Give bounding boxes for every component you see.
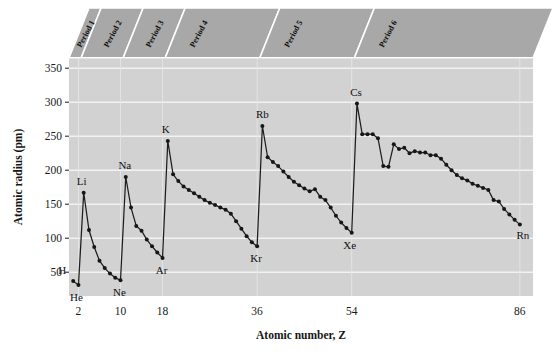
element-label: H — [58, 264, 66, 276]
band-plot-divider — [69, 57, 533, 58]
data-point — [513, 218, 517, 222]
y-tick-labels-group: 50100150200250300350 — [45, 62, 69, 278]
data-point — [397, 147, 401, 151]
data-point — [260, 124, 264, 128]
element-label: Xe — [343, 239, 356, 251]
x-tick-labels-group: 21018365486 — [76, 305, 526, 317]
element-label: K — [162, 123, 170, 135]
data-point — [392, 142, 396, 146]
data-point — [129, 206, 133, 210]
data-point — [97, 259, 101, 263]
data-point — [224, 208, 228, 212]
x-tick-label: 86 — [514, 305, 526, 317]
x-axis-title: Atomic number, Z — [256, 329, 346, 341]
data-point — [297, 183, 301, 187]
data-point — [518, 223, 522, 227]
element-label: Cs — [350, 86, 362, 98]
data-point — [92, 245, 96, 249]
data-point — [271, 160, 275, 164]
data-point — [429, 153, 433, 157]
data-point — [476, 184, 480, 188]
data-point — [507, 212, 511, 216]
data-point — [486, 188, 490, 192]
data-point — [176, 179, 180, 183]
data-point — [119, 278, 123, 282]
y-axis-title: Atomic radius (pm) — [12, 129, 25, 226]
data-point — [255, 244, 259, 248]
data-point — [308, 189, 312, 193]
data-point — [408, 151, 412, 155]
data-point — [82, 191, 86, 195]
element-label: Ne — [113, 286, 126, 298]
data-point — [402, 146, 406, 150]
data-point — [203, 198, 207, 202]
data-point — [323, 198, 327, 202]
x-tick-label: 18 — [157, 305, 169, 317]
data-point — [355, 102, 359, 106]
data-point — [108, 272, 112, 276]
y-tick-label: 350 — [45, 62, 63, 74]
data-point — [276, 164, 280, 168]
data-point — [439, 157, 443, 161]
element-label: Kr — [250, 252, 262, 264]
data-point — [197, 195, 201, 199]
data-point — [465, 178, 469, 182]
chart-svg: 50100150200250300350 21018365486 HHeLiNe… — [0, 0, 557, 351]
data-point — [182, 185, 186, 189]
data-point — [150, 244, 154, 248]
data-point — [287, 175, 291, 179]
data-point — [124, 175, 128, 179]
element-label: He — [70, 291, 83, 303]
data-point — [386, 165, 390, 169]
data-point — [113, 276, 117, 280]
data-point — [344, 226, 348, 230]
data-point — [313, 187, 317, 191]
data-point — [218, 206, 222, 210]
y-tick-label: 100 — [45, 232, 63, 244]
data-point — [444, 163, 448, 167]
element-label: Rn — [516, 229, 529, 241]
data-point — [423, 151, 427, 155]
data-point — [381, 164, 385, 168]
data-point — [365, 132, 369, 136]
data-point — [450, 168, 454, 172]
data-point — [161, 256, 165, 260]
data-point — [213, 203, 217, 207]
data-point — [418, 151, 422, 155]
data-point — [329, 206, 333, 210]
data-point — [371, 132, 375, 136]
x-tick-label: 2 — [76, 305, 82, 317]
data-point — [292, 180, 296, 184]
y-tick-label: 200 — [45, 164, 63, 176]
data-point — [339, 221, 343, 225]
data-point — [318, 195, 322, 199]
data-point — [481, 186, 485, 190]
period-bands-front — [69, 57, 533, 58]
data-point — [266, 155, 270, 159]
data-point — [334, 214, 338, 218]
data-point — [434, 153, 438, 157]
data-point — [134, 224, 138, 228]
element-label: Na — [118, 159, 131, 171]
period-bands-group — [69, 8, 553, 58]
data-point — [192, 191, 196, 195]
data-point — [145, 238, 149, 242]
data-point — [187, 188, 191, 192]
data-point — [103, 266, 107, 270]
x-tick-label: 36 — [251, 305, 263, 317]
data-point — [350, 231, 354, 235]
data-point — [229, 212, 233, 216]
data-point — [166, 139, 170, 143]
data-point — [250, 240, 254, 244]
data-point — [413, 149, 417, 153]
data-point — [302, 187, 306, 191]
data-point — [502, 207, 506, 211]
x-tick-label: 10 — [115, 305, 127, 317]
data-point — [360, 132, 364, 136]
data-point — [155, 250, 159, 254]
data-point — [281, 170, 285, 174]
atomic-radius-chart: 50100150200250300350 21018365486 HHeLiNe… — [0, 0, 557, 351]
element-label: Rb — [256, 108, 269, 120]
data-point — [87, 228, 91, 232]
element-label: Ar — [156, 264, 168, 276]
